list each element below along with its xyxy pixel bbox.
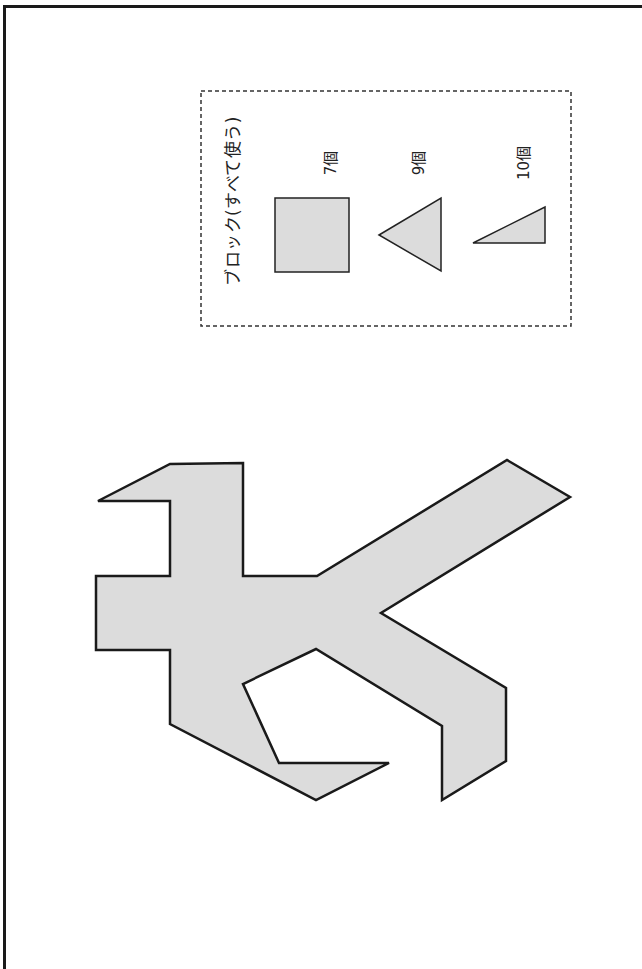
blocks-panel-border xyxy=(201,91,571,326)
puzzle-silhouette xyxy=(96,460,570,800)
isosceles-triangle-block xyxy=(379,198,441,271)
worksheet-canvas xyxy=(0,0,642,969)
right-triangle-block xyxy=(473,207,545,243)
isosceles-triangle-count-label: 9個 xyxy=(412,151,427,176)
blocks-panel-title: ブロック(すべて使う) xyxy=(225,116,242,286)
square-count-label: 7個 xyxy=(324,151,339,176)
right-triangle-count-label: 10個 xyxy=(517,146,532,180)
square-block xyxy=(275,198,349,272)
